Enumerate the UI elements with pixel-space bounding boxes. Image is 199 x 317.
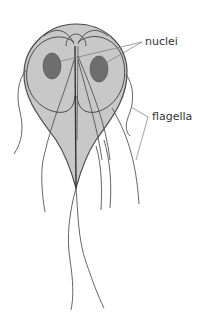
flagella-leader-lower: [136, 117, 148, 160]
flagellum-posterolateral-right-1: [96, 146, 101, 210]
nucleus-right: [90, 56, 108, 82]
nucleus-left: [43, 53, 61, 79]
flagellum-caudal-left: [68, 188, 76, 310]
label-flagella: flagella: [152, 111, 192, 122]
flagellum-posterolateral-right-2: [104, 140, 111, 208]
flagellum-anterior-right: [126, 74, 133, 136]
axostyle: [75, 46, 76, 188]
flagellum-caudal-right: [76, 188, 104, 308]
flagellum-ventral-right: [112, 108, 139, 204]
label-nuclei: nuclei: [145, 36, 178, 47]
flagella-leader-upper: [131, 107, 148, 117]
flagellum-posterolateral-left: [42, 156, 45, 212]
